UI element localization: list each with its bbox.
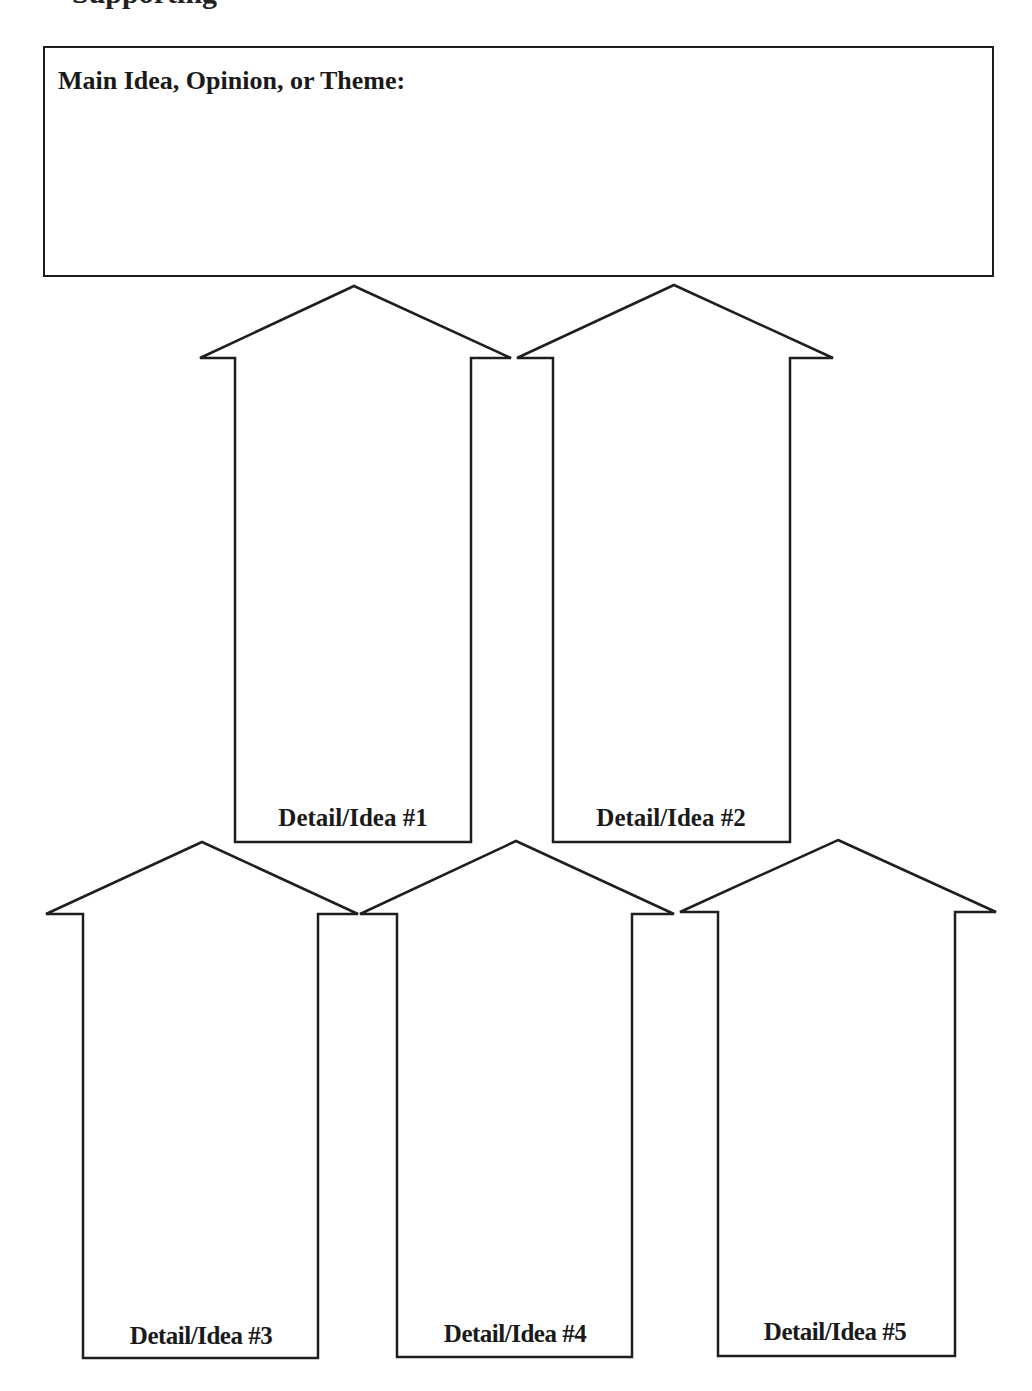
arrow-detail-5[interactable] — [680, 840, 996, 1356]
arrow-label-2: Detail/Idea #2 — [596, 804, 745, 832]
arrow-label-1: Detail/Idea #1 — [278, 804, 427, 832]
arrow-detail-3[interactable] — [46, 842, 358, 1358]
arrow-label-3: Detail/Idea #3 — [130, 1322, 272, 1350]
arrow-label-5: Detail/Idea #5 — [764, 1318, 906, 1346]
arrows-diagram — [0, 0, 1032, 1391]
arrow-detail-1[interactable] — [200, 286, 511, 842]
arrow-detail-4[interactable] — [360, 841, 674, 1357]
arrow-label-4: Detail/Idea #4 — [444, 1320, 586, 1348]
arrow-detail-2[interactable] — [517, 285, 833, 842]
